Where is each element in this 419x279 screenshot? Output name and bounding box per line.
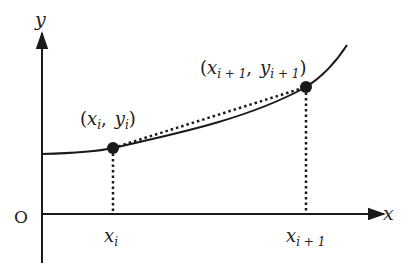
origin-label: O xyxy=(14,207,28,227)
tick-label-xi1: xi + 1 xyxy=(286,225,325,249)
point-xi1-yi1 xyxy=(300,81,312,93)
point-xi-yi xyxy=(107,142,119,154)
y-axis-label: y xyxy=(34,8,46,30)
x-axis-label: x xyxy=(383,202,394,224)
point-label-xi-yi: (xi,yi) xyxy=(80,108,136,132)
diagram-canvas: y x O (xi,yi) (xi + 1,yi + 1) xi xi + 1 xyxy=(0,0,419,279)
point-label-xi1-yi1: (xi + 1,yi + 1) xyxy=(200,57,306,81)
tick-label-xi: xi xyxy=(104,225,118,249)
secant-line xyxy=(113,87,306,148)
